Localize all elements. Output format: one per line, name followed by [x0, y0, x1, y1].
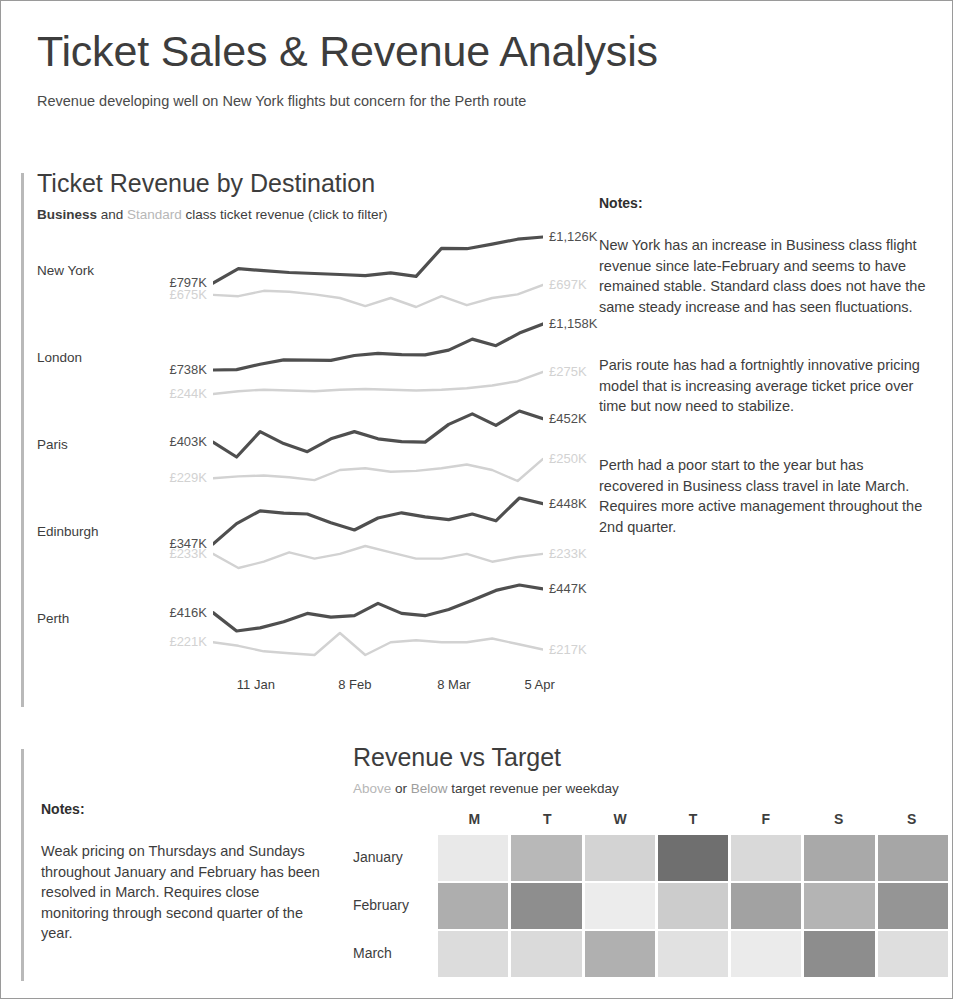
standard-start-value: £221K [131, 634, 207, 649]
legend-business[interactable]: Business [37, 207, 97, 222]
standard-start-value: £675K [131, 287, 207, 302]
heatmap-column-headers: MTWTFSS [438, 811, 948, 835]
sparkline-rows: New York£797K£1,126K£675K£697KLondon£738… [21, 231, 591, 666]
legend-below[interactable]: Below [411, 781, 448, 796]
lines-panel-title: Ticket Revenue by Destination [37, 169, 375, 198]
destination-label[interactable]: Perth [37, 611, 69, 626]
heatmap-cells [438, 931, 948, 977]
standard-end-value: £233K [549, 546, 587, 561]
heatmap-cell[interactable] [878, 835, 948, 881]
standard-line [213, 633, 543, 655]
heatmap-cell[interactable] [731, 931, 801, 977]
business-start-value: £738K [131, 362, 207, 377]
business-line [213, 324, 543, 370]
heatmap-row: February [353, 883, 948, 931]
x-axis-tick: 5 Apr [514, 677, 566, 692]
heatmap-row-header: February [353, 897, 433, 913]
heatmap-cell[interactable] [585, 835, 655, 881]
standard-end-value: £250K [549, 451, 587, 466]
destination-label[interactable]: Edinburgh [37, 524, 99, 539]
notes-panel-left: Notes: Weak pricing on Thursdays and Sun… [41, 801, 331, 944]
destination-row[interactable]: Edinburgh£347K£448K£233K£233K [21, 492, 591, 579]
ticket-revenue-panel: Ticket Revenue by Destination Business a… [21, 169, 933, 731]
x-axis-ticks: 11 Jan8 Feb8 Mar5 Apr [213, 677, 543, 697]
heatmap-row-header: January [353, 849, 433, 865]
standard-line [213, 546, 543, 568]
destination-row[interactable]: Paris£403K£452K£229K£250K [21, 405, 591, 492]
heatmap-column-header: M [438, 811, 511, 827]
legend-above[interactable]: Above [353, 781, 391, 796]
business-end-value: £1,126K [549, 229, 597, 244]
notes-panel-right: Notes: New York has an increase in Busin… [599, 195, 929, 575]
sparkline-group[interactable] [213, 492, 543, 576]
heatmap-cell[interactable] [804, 931, 874, 977]
dashboard-header: Ticket Sales & Revenue Analysis Revenue … [37, 27, 917, 109]
heatmap-column-header: T [511, 811, 584, 827]
sparkline-group[interactable] [213, 318, 543, 402]
heatmap-cell[interactable] [511, 883, 581, 929]
standard-start-value: £244K [131, 386, 207, 401]
panel-accent-bar-2 [21, 749, 24, 981]
business-end-value: £447K [549, 581, 587, 596]
business-end-value: £448K [549, 496, 587, 511]
heatmap-row: March [353, 931, 948, 979]
target-panel-subtitle: Above or Below target revenue per weekda… [353, 781, 619, 796]
heatmap-cell[interactable] [878, 931, 948, 977]
heatmap-cell[interactable] [585, 931, 655, 977]
heatmap-cell[interactable] [878, 883, 948, 929]
heatmap-cell[interactable] [511, 835, 581, 881]
sparkline-group[interactable] [213, 405, 543, 489]
destination-row[interactable]: London£738K£1,158K£244K£275K [21, 318, 591, 405]
heatmap-cell[interactable] [511, 931, 581, 977]
heatmap-cell[interactable] [731, 835, 801, 881]
heatmap-cell[interactable] [804, 883, 874, 929]
business-start-value: £416K [131, 605, 207, 620]
business-end-value: £452K [549, 411, 587, 426]
heatmap-column-header: W [584, 811, 657, 827]
heatmap-cell[interactable] [658, 835, 728, 881]
sparkline-group[interactable] [213, 231, 543, 315]
heatmap-column-header: S [802, 811, 875, 827]
heatmap-cell[interactable] [731, 883, 801, 929]
heatmap-row-header: March [353, 945, 433, 961]
business-line [213, 411, 543, 457]
x-axis-tick: 8 Feb [329, 677, 381, 692]
notes-heading: Notes: [599, 195, 929, 211]
standard-start-value: £229K [131, 470, 207, 485]
heatmap-cell[interactable] [658, 883, 728, 929]
destination-label[interactable]: Paris [37, 437, 68, 452]
heatmap-cell[interactable] [658, 931, 728, 977]
legend-suffix: class ticket revenue (click to filter) [182, 207, 388, 222]
heatmap-cell[interactable] [438, 835, 508, 881]
heatmap-column-header: S [875, 811, 948, 827]
heatmap-cell[interactable] [585, 883, 655, 929]
dashboard-page: Ticket Sales & Revenue Analysis Revenue … [0, 0, 953, 999]
legend-standard[interactable]: Standard [127, 207, 182, 222]
standard-line [213, 285, 543, 307]
heatmap-cell[interactable] [438, 931, 508, 977]
destination-row[interactable]: New York£797K£1,126K£675K£697K [21, 231, 591, 318]
standard-end-value: £697K [549, 277, 587, 292]
business-line [213, 498, 543, 544]
notes-heading-2: Notes: [41, 801, 331, 817]
heatmap-cell[interactable] [438, 883, 508, 929]
heatmap-cells [438, 883, 948, 929]
standard-end-value: £275K [549, 364, 587, 379]
note-weekday-pricing: Weak pricing on Thursdays and Sundays th… [41, 841, 331, 944]
standard-end-value: £217K [549, 642, 587, 657]
destination-label[interactable]: New York [37, 263, 94, 278]
heatmap-column-header: F [729, 811, 802, 827]
target-panel-title: Revenue vs Target [353, 743, 561, 772]
x-axis-tick: 8 Mar [428, 677, 480, 692]
page-title: Ticket Sales & Revenue Analysis [37, 27, 917, 75]
destination-row[interactable]: Perth£416K£447K£221K£217K [21, 579, 591, 666]
legend-suffix-2: target revenue per weekday [448, 781, 619, 796]
legend-conjunction-2: or [391, 781, 411, 796]
heatmap-column-header: T [657, 811, 730, 827]
heatmap-row: January [353, 835, 948, 883]
destination-label[interactable]: London [37, 350, 82, 365]
heatmap-cell[interactable] [804, 835, 874, 881]
revenue-vs-target-panel: Revenue vs Target Above or Below target … [21, 749, 933, 987]
sparkline-group[interactable] [213, 579, 543, 663]
standard-line [213, 372, 543, 394]
